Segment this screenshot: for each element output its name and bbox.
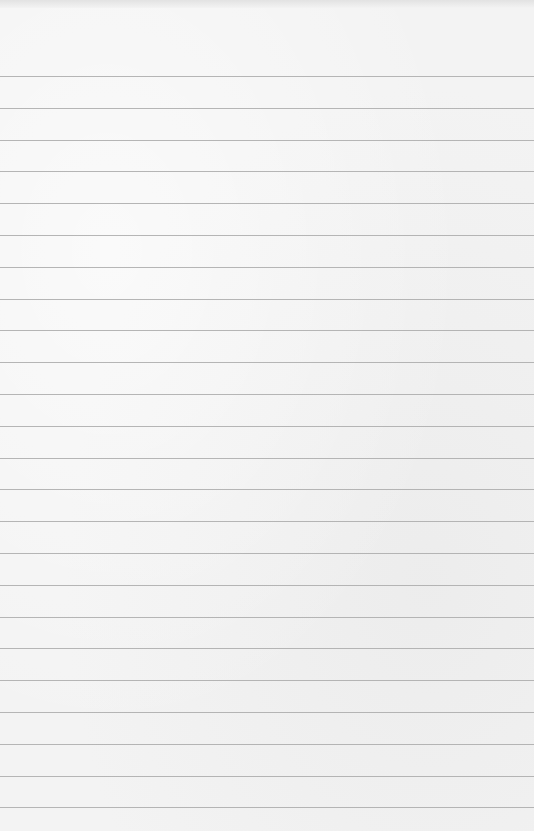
ruled-line — [0, 140, 534, 141]
ruled-line — [0, 203, 534, 204]
ruled-line — [0, 617, 534, 618]
ruled-line — [0, 744, 534, 745]
paper-top-edge — [0, 0, 534, 8]
ruled-line — [0, 680, 534, 681]
ruled-line — [0, 489, 534, 490]
ruled-line — [0, 171, 534, 172]
ruled-line — [0, 553, 534, 554]
ruled-line — [0, 362, 534, 363]
ruled-line — [0, 521, 534, 522]
ruled-line — [0, 267, 534, 268]
ruled-line — [0, 235, 534, 236]
ruled-line — [0, 108, 534, 109]
ruled-line — [0, 585, 534, 586]
ruled-line — [0, 330, 534, 331]
ruled-line — [0, 394, 534, 395]
ruled-line — [0, 76, 534, 77]
ruled-line — [0, 648, 534, 649]
ruled-line — [0, 458, 534, 459]
ruled-line — [0, 776, 534, 777]
lined-paper — [0, 0, 534, 831]
ruled-line — [0, 807, 534, 808]
ruled-line — [0, 712, 534, 713]
ruled-line — [0, 426, 534, 427]
ruled-line — [0, 299, 534, 300]
